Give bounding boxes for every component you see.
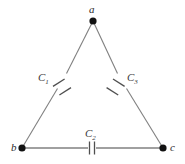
capacitor-c1-symbol [53, 79, 71, 95]
wire-c1-to-a [67, 21, 94, 74]
node-dot-b [18, 144, 25, 151]
capacitor-c3-symbol [107, 79, 125, 95]
wire-b-to-c1 [22, 89, 58, 149]
node-dot-c [159, 144, 166, 151]
capacitor-label-c3: C3 [127, 72, 138, 86]
wire-a-to-c3 [93, 21, 118, 74]
wire-c3-to-c [127, 89, 164, 149]
capacitor-label-c1-subscript: 1 [45, 78, 49, 86]
node-dot-a [89, 17, 96, 24]
capacitor-label-c3-subscript: 3 [134, 78, 138, 86]
capacitor-label-c2: C2 [85, 128, 96, 142]
node-label-b: b [11, 142, 17, 153]
node-label-c: c [170, 142, 175, 153]
capacitor-label-c1: C1 [38, 72, 49, 86]
circuit-diagram-figure: a b c C1 C2 C3 [0, 0, 185, 164]
capacitor-label-c2-subscript: 2 [92, 134, 96, 142]
node-label-a: a [89, 4, 95, 15]
capacitor-c2-symbol [90, 142, 95, 155]
